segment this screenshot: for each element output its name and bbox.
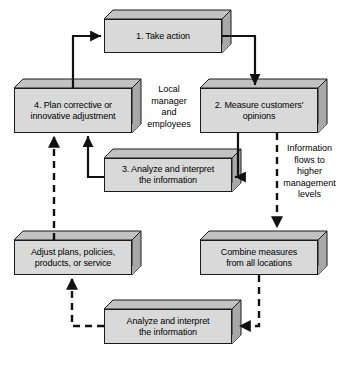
box-analyze-interpret-central-label: Analyze and interpret the information	[127, 316, 210, 338]
annotation-local-manager: Local manager and employees	[139, 84, 199, 130]
annotation-information-flows: Information flows to higher management l…	[281, 143, 338, 201]
box-adjust-plans[interactable]: Adjust plans, policies, products, or ser…	[14, 240, 132, 275]
box-measure-customers-label: 2. Measure customers' opinions	[215, 100, 304, 122]
connector-combine-to-analyze-central	[240, 275, 259, 326]
box-take-action[interactable]: 1. Take action	[104, 19, 222, 53]
diagram-canvas: 1. Take action 4. Plan corrective or inn…	[0, 0, 338, 370]
box-analyze-interpret-central[interactable]: Analyze and interpret the information	[104, 309, 232, 344]
connector-analyze-to-plan	[88, 137, 104, 177]
box-take-action-label: 1. Take action	[136, 31, 190, 42]
box-measure-customers[interactable]: 2. Measure customers' opinions	[200, 88, 318, 133]
box-adjust-plans-label: Adjust plans, policies, products, or ser…	[31, 247, 115, 269]
box-analyze-interpret-local-label: 3. Analyze and interpret the information	[122, 164, 214, 186]
box-plan-corrective[interactable]: 4. Plan corrective or innovative adjustm…	[14, 88, 132, 133]
box-plan-corrective-label: 4. Plan corrective or innovative adjustm…	[31, 100, 116, 122]
box-combine-measures-label: Combine measures from all locations	[221, 247, 297, 269]
connector-analyze-central-to-adjust	[72, 279, 104, 326]
box-combine-measures[interactable]: Combine measures from all locations	[200, 240, 318, 275]
box-analyze-interpret-local[interactable]: 3. Analyze and interpret the information	[104, 158, 232, 192]
